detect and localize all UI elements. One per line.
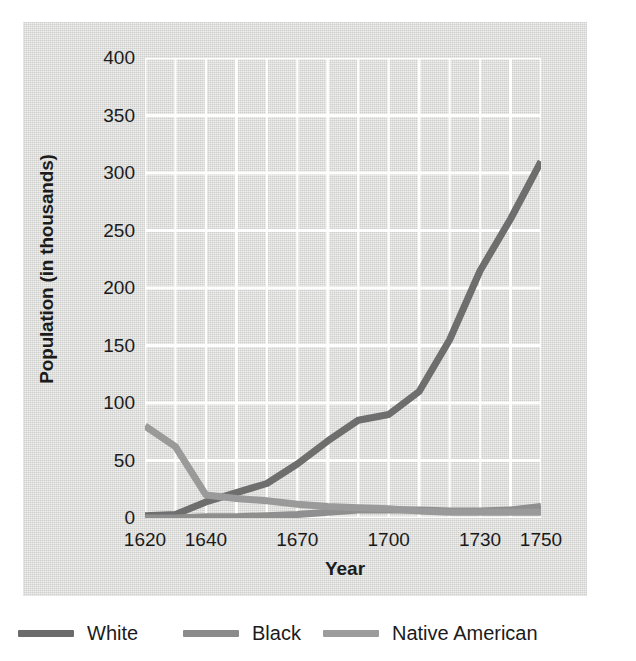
x-tick-1640: 1640 — [171, 530, 241, 549]
y-tick-200: 200 — [77, 278, 135, 297]
data-series-lines — [145, 162, 541, 519]
legend-item-native-american[interactable]: Native American — [323, 618, 538, 648]
y-tick-50: 50 — [77, 451, 135, 470]
x-tick-1620: 1620 — [110, 530, 180, 549]
x-tick-1730: 1730 — [445, 530, 515, 549]
horizontal-gridlines — [145, 58, 541, 518]
legend-item-black[interactable]: Black — [183, 618, 301, 648]
x-tick-1750: 1750 — [506, 530, 576, 549]
legend-label: White — [87, 622, 138, 645]
y-axis-title: Population (in thousands) — [36, 104, 58, 434]
legend-label: Black — [252, 622, 301, 645]
legend-label: Native American — [392, 622, 538, 645]
figure-container: Population (in thousands) 05010015020025… — [0, 0, 636, 661]
y-tick-400: 400 — [77, 48, 135, 67]
x-tick-1670: 1670 — [262, 530, 332, 549]
series-line-white — [145, 162, 541, 516]
legend-swatch-icon — [18, 630, 74, 637]
plot-area — [145, 58, 541, 518]
legend-swatch-icon — [183, 630, 239, 637]
x-tick-1700: 1700 — [354, 530, 424, 549]
legend-swatch-icon — [323, 630, 379, 637]
y-tick-100: 100 — [77, 393, 135, 412]
y-tick-350: 350 — [77, 106, 135, 125]
chart-legend: WhiteBlackNative American — [0, 618, 636, 652]
y-tick-0: 0 — [77, 508, 135, 527]
line-chart-svg — [145, 58, 541, 518]
y-tick-150: 150 — [77, 336, 135, 355]
y-tick-250: 250 — [77, 221, 135, 240]
y-tick-300: 300 — [77, 163, 135, 182]
legend-item-white[interactable]: White — [18, 618, 138, 648]
x-axis-title: Year — [145, 558, 545, 580]
